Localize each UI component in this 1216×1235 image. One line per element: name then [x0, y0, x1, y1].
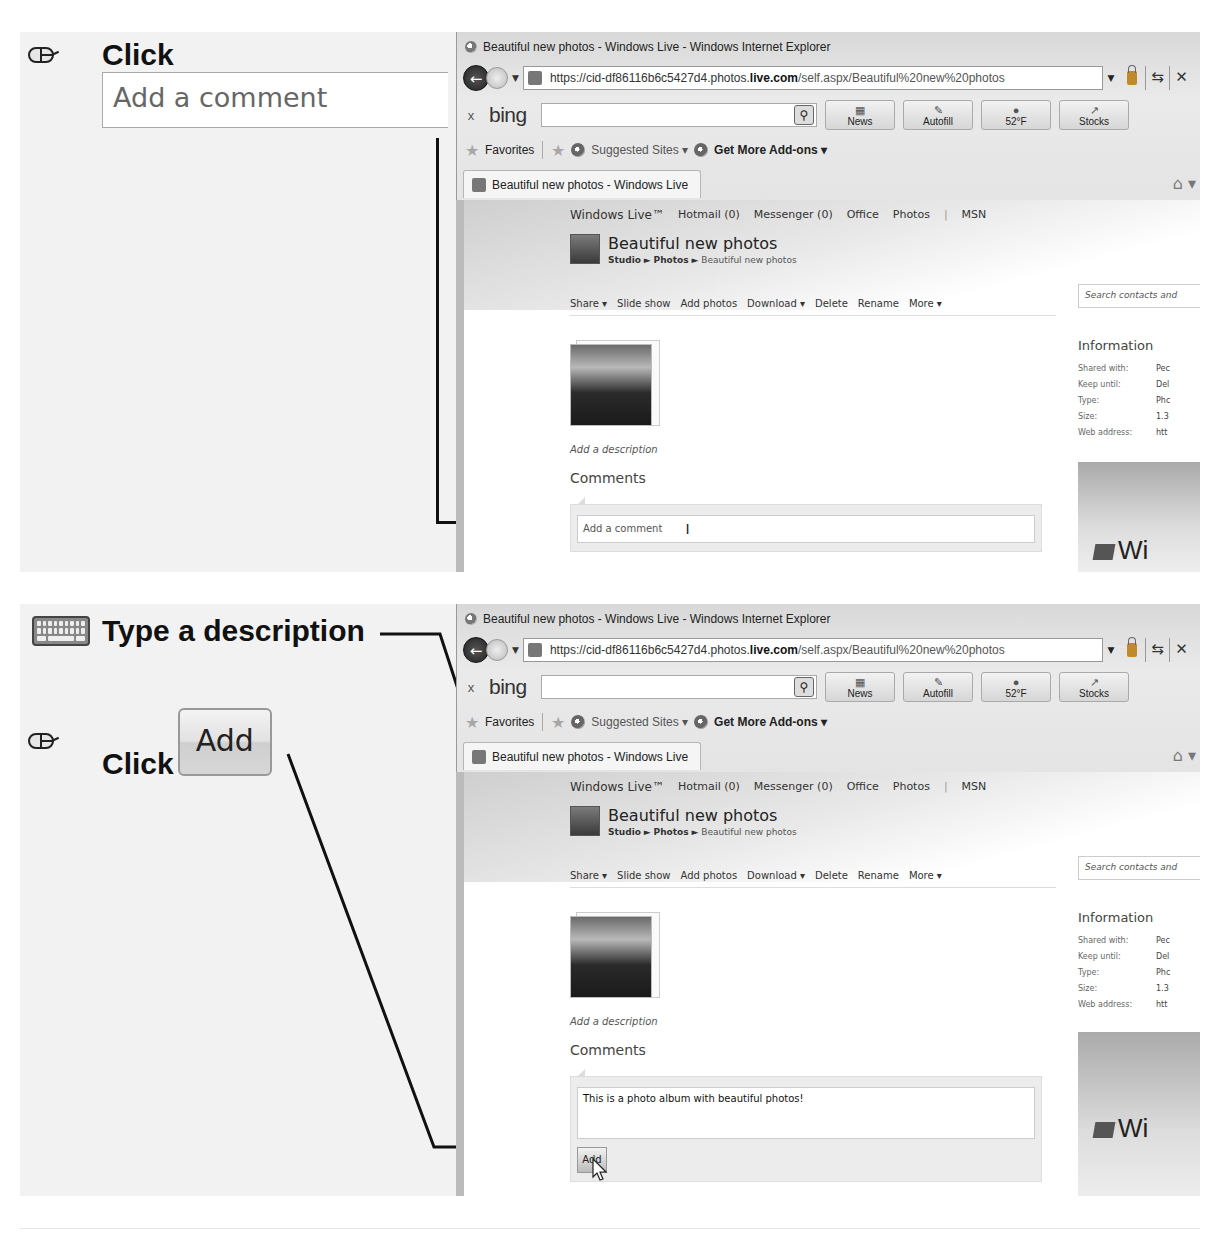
nav-messenger[interactable]: Messenger (0) [754, 208, 833, 222]
search-icon[interactable]: ⚲ [794, 677, 814, 697]
share-menu[interactable]: Share ▾ [570, 298, 607, 309]
news-button[interactable]: ▦News [825, 672, 895, 702]
instruction-panel: Click Add a comment [20, 32, 456, 572]
address-dropdown-icon[interactable]: ▼ [1103, 73, 1119, 83]
favorites-button[interactable]: Favorites [485, 715, 534, 729]
lock-icon[interactable] [1127, 643, 1137, 657]
nav-hotmail[interactable]: Hotmail (0) [678, 780, 740, 794]
favorites-bar: ★ Favorites ★ Suggested Sites ▾ Get More… [465, 138, 827, 162]
address-bar[interactable]: https://cid-df86116b6c5427d4.photos.live… [523, 638, 1103, 662]
home-icon[interactable]: ⌂ ▾ [1173, 746, 1196, 765]
add-comment-button[interactable]: Add [577, 1147, 607, 1173]
ie-chrome: Beautiful new photos - Windows Live - Wi… [456, 32, 1200, 200]
album-action-bar: Share ▾ Slide show Add photos Download ▾… [570, 870, 1056, 888]
windows-live-logo[interactable]: Windows Live™ [570, 208, 664, 222]
slide-show-link[interactable]: Slide show [617, 298, 670, 309]
stop-button[interactable]: ✕ [1169, 66, 1193, 90]
nav-office[interactable]: Office [847, 780, 879, 794]
search-contacts-input[interactable]: Search contacts and [1078, 284, 1200, 308]
delete-link[interactable]: Delete [815, 870, 848, 881]
chart-icon: ↗ [1060, 676, 1128, 688]
suggested-sites-link[interactable]: Suggested Sites ▾ [591, 143, 688, 157]
add-description-link[interactable]: Add a description [570, 1016, 658, 1027]
download-menu[interactable]: Download ▾ [747, 298, 805, 309]
ie-icon [694, 143, 708, 157]
keyboard-icon [32, 616, 90, 646]
pencil-icon: ✎ [904, 104, 972, 116]
bing-search-input[interactable]: ⚲ [541, 103, 817, 127]
nav-office[interactable]: Office [847, 208, 879, 222]
lock-icon[interactable] [1127, 71, 1137, 85]
nav-messenger[interactable]: Messenger (0) [754, 780, 833, 794]
get-addons-link[interactable]: Get More Add-ons ▾ [714, 715, 827, 729]
news-button[interactable]: ▦News [825, 100, 895, 130]
nav-hotmail[interactable]: Hotmail (0) [678, 208, 740, 222]
news-icon: ▦ [826, 104, 894, 116]
information-heading: Information [1078, 338, 1153, 353]
ie-logo-icon [465, 613, 477, 625]
autofill-button[interactable]: ✎Autofill [903, 100, 973, 130]
rename-link[interactable]: Rename [858, 298, 899, 309]
home-icon[interactable]: ⌂ ▾ [1173, 174, 1196, 193]
address-dropdown-icon[interactable]: ▼ [1103, 645, 1119, 655]
photo-thumbnail[interactable] [570, 916, 652, 998]
forward-button[interactable] [486, 639, 508, 661]
weather-button[interactable]: ●52°F [981, 100, 1051, 130]
tab-windows-live[interactable]: Beautiful new photos - Windows Live [463, 742, 701, 770]
nav-photos[interactable]: Photos [893, 780, 930, 794]
instruction-panel: Type a description Click Add [20, 604, 456, 1196]
breadcrumb-studio[interactable]: Studio [608, 255, 641, 265]
weather-button[interactable]: ●52°F [981, 672, 1051, 702]
breadcrumb-photos[interactable]: Photos [654, 255, 689, 265]
nav-msn[interactable]: MSN [962, 208, 987, 222]
windows-flag-icon [1093, 544, 1116, 560]
photo-thumbnail[interactable] [570, 344, 652, 426]
bing-search-input[interactable]: ⚲ [541, 675, 817, 699]
address-bar[interactable]: https://cid-df86116b6c5427d4.photos.live… [523, 66, 1103, 90]
windows-ad-banner[interactable]: Wi [1078, 462, 1200, 572]
add-description-link[interactable]: Add a description [570, 444, 658, 455]
get-addons-link[interactable]: Get More Add-ons ▾ [714, 143, 827, 157]
more-menu[interactable]: More ▾ [909, 298, 942, 309]
favorites-button[interactable]: Favorites [485, 143, 534, 157]
search-contacts-input[interactable]: Search contacts and [1078, 856, 1200, 880]
share-menu[interactable]: Share ▾ [570, 870, 607, 881]
tab-windows-live[interactable]: Beautiful new photos - Windows Live [463, 170, 701, 198]
search-icon[interactable]: ⚲ [794, 105, 814, 125]
add-favorite-icon[interactable]: ★ [551, 713, 565, 732]
more-menu[interactable]: More ▾ [909, 870, 942, 881]
autofill-button[interactable]: ✎Autofill [903, 672, 973, 702]
stocks-button[interactable]: ↗Stocks [1059, 100, 1129, 130]
photo-stack[interactable] [570, 912, 662, 1000]
comment-input[interactable]: This is a photo album with beautiful pho… [577, 1087, 1035, 1139]
download-menu[interactable]: Download ▾ [747, 870, 805, 881]
nav-msn[interactable]: MSN [962, 780, 987, 794]
history-dropdown-icon[interactable]: ▼ [512, 73, 519, 83]
suggested-sites-link[interactable]: Suggested Sites ▾ [591, 715, 688, 729]
add-photos-link[interactable]: Add photos [681, 298, 738, 309]
add-favorite-icon[interactable]: ★ [551, 141, 565, 160]
breadcrumb-photos[interactable]: Photos [654, 827, 689, 837]
delete-link[interactable]: Delete [815, 298, 848, 309]
comments-heading: Comments [570, 1042, 646, 1058]
toolbar-close-button[interactable]: x [457, 680, 485, 695]
slide-show-link[interactable]: Slide show [617, 870, 670, 881]
windows-live-logo[interactable]: Windows Live™ [570, 780, 664, 794]
stocks-button[interactable]: ↗Stocks [1059, 672, 1129, 702]
nav-photos[interactable]: Photos [893, 208, 930, 222]
stop-button[interactable]: ✕ [1169, 638, 1193, 662]
album-action-bar: Share ▾ Slide show Add photos Download ▾… [570, 298, 1056, 316]
comment-input[interactable]: Add a comment I [577, 515, 1035, 543]
rename-link[interactable]: Rename [858, 870, 899, 881]
add-photos-link[interactable]: Add photos [681, 870, 738, 881]
history-dropdown-icon[interactable]: ▼ [512, 645, 519, 655]
toolbar-close-button[interactable]: x [457, 108, 485, 123]
navigation-bar: ← ▼ https://cid-df86116b6c5427d4.photos.… [463, 64, 1193, 92]
photo-stack[interactable] [570, 340, 662, 428]
breadcrumb-studio[interactable]: Studio [608, 827, 641, 837]
album-thumbnail [570, 806, 600, 836]
refresh-button[interactable]: ⇆ [1145, 66, 1169, 90]
forward-button[interactable] [486, 67, 508, 89]
refresh-button[interactable]: ⇆ [1145, 638, 1169, 662]
windows-ad-banner[interactable]: Wi [1078, 1032, 1200, 1196]
